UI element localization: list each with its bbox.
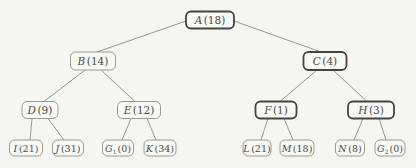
node-letter: F [263, 104, 272, 116]
tree-node-E: E(12) [118, 102, 161, 119]
node-letter: L [242, 143, 249, 154]
node-label-I: I(21) [13, 143, 39, 154]
node-letter: M [281, 143, 292, 154]
node-letter: H [357, 104, 368, 116]
node-weight: (1) [273, 104, 288, 116]
tree-edge-A-B [97, 21, 186, 52]
node-weight: (21) [251, 143, 271, 154]
node-label-M: M(18) [281, 143, 313, 154]
tree-node-G1: G1(0) [103, 140, 134, 156]
node-weight: (0) [117, 143, 130, 154]
node-label-C: C(4) [313, 55, 337, 67]
tree-node-J: J(31) [53, 140, 84, 156]
node-label-H: H(3) [357, 104, 384, 116]
tree-edge-F-L [261, 119, 268, 141]
node-weight: (0) [389, 143, 402, 154]
node-weight: (18) [204, 14, 226, 26]
tree-node-K: K(34) [144, 140, 176, 156]
node-label-F: F(1) [263, 104, 288, 116]
tree-edge-E-G1 [122, 119, 131, 141]
tree-node-F: F(1) [256, 102, 297, 119]
node-weight: (21) [19, 143, 39, 154]
tree-edge-E-K [147, 119, 156, 141]
tree-edge-F-M [284, 119, 293, 141]
node-label-N: N(8) [337, 143, 361, 154]
node-letter: I [13, 143, 18, 154]
node-letter-subscript: 1 [113, 149, 117, 155]
tree-edge-B-E [101, 70, 135, 102]
tree-edge-H-G2 [379, 119, 386, 141]
node-label-J: J(31) [54, 143, 81, 154]
node-label-E: E(12) [123, 104, 155, 116]
tree-edge-H-N [354, 119, 363, 141]
node-label-K: K(34) [145, 143, 174, 154]
tree-edge-D-I [30, 119, 32, 141]
tree-node-L: L(21) [242, 140, 271, 156]
node-weight: (8) [348, 143, 361, 154]
tree-node-A: A(18) [186, 12, 234, 29]
node-label-G1: G1(0) [105, 143, 131, 156]
node-weight: (3) [369, 104, 384, 116]
tree-node-I: I(21) [10, 140, 43, 156]
node-weight: (34) [155, 143, 175, 154]
tree-node-B: B(14) [71, 52, 116, 70]
tree-node-M: M(18) [280, 140, 314, 156]
node-label-G2: G2(0) [377, 143, 403, 156]
tree-edge-B-D [44, 70, 85, 102]
node-label-B: B(14) [77, 55, 109, 67]
tree-diagram: A(18)B(14)C(4)D(9)E(12)F(1)H(3)I(21)J(31… [0, 0, 416, 168]
tree-edge-A-C [234, 21, 321, 52]
tree-node-D: D(9) [22, 102, 58, 119]
node-letter: C [313, 55, 321, 67]
node-weight: (14) [87, 55, 109, 67]
node-letter: A [194, 14, 203, 26]
node-weight: (9) [38, 104, 53, 116]
tree-edge-D-J [48, 119, 64, 141]
tree-node-H: H(3) [348, 102, 394, 119]
node-letter: B [77, 55, 86, 67]
node-weight: (4) [322, 55, 337, 67]
node-label-D: D(9) [27, 104, 53, 116]
node-weight: (31) [61, 143, 81, 154]
node-label-L: L(21) [242, 143, 270, 154]
node-weight: (18) [293, 143, 313, 154]
node-letter-subscript: 2 [385, 149, 389, 155]
tree-node-C: C(4) [304, 52, 347, 70]
node-weight: (12) [133, 104, 155, 116]
tree-edge-C-H [333, 70, 367, 102]
tree-node-N: N(8) [336, 140, 365, 156]
node-letter: E [123, 104, 132, 116]
node-letter: D [27, 104, 37, 116]
node-label-A: A(18) [194, 14, 226, 26]
tree-node-G2: G2(0) [375, 140, 405, 156]
tree-edge-C-F [280, 70, 317, 102]
node-letter: K [145, 143, 154, 154]
node-letter: N [337, 143, 347, 154]
